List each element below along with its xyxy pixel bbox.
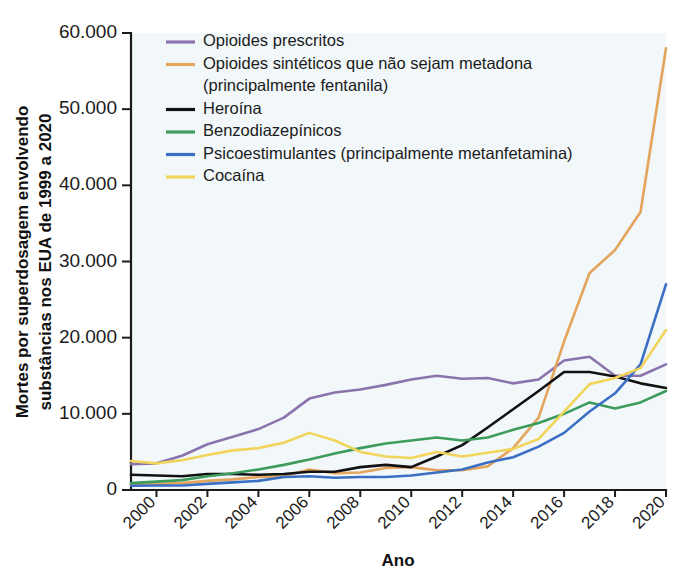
y-tick-label: 10.000 bbox=[59, 402, 117, 423]
y-axis-title-line2: substâncias nos EUA de 1999 a 2020 bbox=[36, 113, 55, 410]
y-tick-label: 20.000 bbox=[59, 326, 117, 347]
chart-canvas: 010.00020.00030.00040.00050.00060.000 20… bbox=[0, 0, 682, 580]
y-tick-label: 0 bbox=[106, 478, 117, 499]
legend-label: Opioides prescritos bbox=[203, 31, 344, 49]
legend-label: (principalmente fentanila) bbox=[203, 76, 388, 94]
legend-label: Psicoestimulantes (principalmente metanf… bbox=[203, 144, 573, 162]
legend-label: Benzodiazepínicos bbox=[203, 121, 342, 139]
y-tick-label: 30.000 bbox=[59, 250, 117, 271]
y-tick-label: 40.000 bbox=[59, 173, 117, 194]
legend-label: Opioides sintéticos que não sejam metado… bbox=[203, 54, 533, 72]
y-axis-title-line1: Mortes por superdosagem envolvendo bbox=[13, 106, 32, 419]
legend-label: Cocaína bbox=[203, 166, 265, 184]
overdose-deaths-line-chart: 010.00020.00030.00040.00050.00060.000 20… bbox=[0, 0, 682, 580]
x-axis-title: Ano bbox=[381, 551, 414, 570]
y-tick-label: 50.000 bbox=[59, 97, 117, 118]
legend-label: Heroína bbox=[203, 99, 263, 117]
y-tick-label: 60.000 bbox=[59, 21, 117, 42]
